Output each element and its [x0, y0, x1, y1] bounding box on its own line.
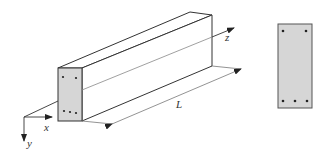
beam-prism: [58, 12, 212, 121]
extension-line-front: [82, 121, 112, 124]
rebar-dot: [306, 100, 309, 103]
extension-line-back: [212, 66, 241, 69]
beam-diagram: x y z L: [0, 0, 329, 151]
rebar-dot: [63, 110, 65, 112]
rebar-dot: [282, 30, 285, 33]
cross-section-outline: [278, 24, 312, 108]
rebar-dot: [305, 30, 308, 33]
rebar-dot: [294, 100, 297, 103]
cross-section: [278, 24, 312, 108]
rebar-dot: [62, 76, 64, 78]
rebar-dot: [75, 112, 77, 114]
z-axis-label: z: [224, 31, 230, 43]
rebar-dot: [282, 100, 285, 103]
rebar-dot: [69, 111, 71, 113]
z-axis-arrow: [212, 28, 234, 37]
rebar-dot: [75, 77, 77, 79]
length-label: L: [175, 98, 182, 110]
x-axis-label: x: [43, 121, 49, 133]
centroid-axis-front: [24, 101, 58, 117]
y-axis-label: y: [26, 137, 32, 149]
